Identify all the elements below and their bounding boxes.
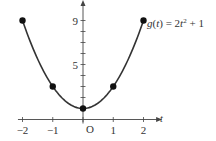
y-tick-label: 5 (73, 59, 79, 71)
x-tick-label: 1 (111, 124, 117, 136)
func-mid: ) = 2 (159, 17, 180, 30)
func-suffix: + 1 (187, 17, 204, 29)
x-tick-label: −1 (47, 124, 59, 136)
data-point (140, 17, 146, 23)
data-point (19, 17, 25, 23)
function-label: g(t) = 2t2 + 1 (147, 17, 204, 30)
y-tick-label: 9 (73, 15, 79, 27)
data-point (110, 83, 116, 89)
data-point (50, 83, 56, 89)
x-tick-label: −2 (17, 124, 29, 136)
x-axis-label: t (160, 113, 163, 124)
x-tick-label: 2 (141, 124, 147, 136)
function-graph: −2−11259 g(t) = 2t2 + 1 t O (0, 0, 216, 141)
origin-label: O (86, 123, 94, 135)
data-point (80, 105, 86, 111)
tick-labels: −2−11259 (17, 15, 147, 136)
y-axis-arrow (81, 0, 86, 6)
